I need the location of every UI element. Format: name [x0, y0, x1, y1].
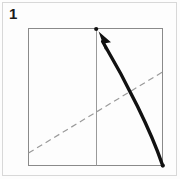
square-paper-sheet [29, 29, 163, 166]
source-corner-dot [161, 164, 165, 168]
fold-diagram-canvas [0, 0, 180, 179]
figure-root: 1 [0, 0, 180, 179]
target-corner-dot [94, 27, 98, 31]
